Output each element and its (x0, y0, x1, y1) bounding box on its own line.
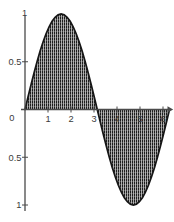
x-tick-label: 4 (114, 114, 119, 124)
plot-svg: 12345610.50.510 (0, 0, 174, 222)
y-tick-label: 0.5 (9, 57, 22, 67)
x-tick-label: 1 (45, 114, 50, 124)
x-tick-label: 6 (160, 114, 165, 124)
x-tick-label: 2 (68, 114, 73, 124)
y-tick-label: 0.5 (9, 153, 22, 163)
x-tick-label: 3 (91, 114, 96, 124)
y-tick-label: 1 (16, 200, 21, 210)
x-tick-label: 5 (137, 114, 142, 124)
origin-label: 0 (9, 113, 14, 123)
x-axis-arrow-icon (168, 106, 174, 112)
sine-area-figure: 12345610.50.510 (0, 0, 174, 222)
y-tick-label: 1 (22, 8, 27, 18)
